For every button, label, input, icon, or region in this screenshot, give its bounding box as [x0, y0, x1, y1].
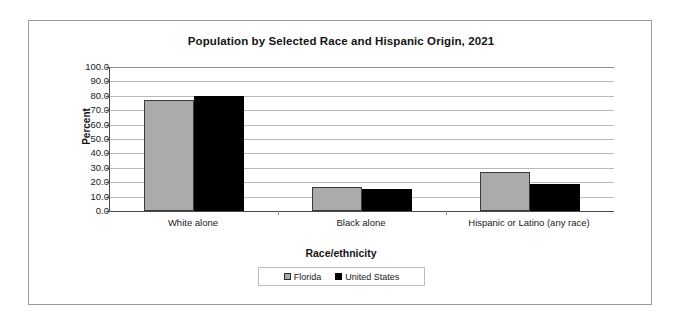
legend-item-united-states[interactable]: United States	[335, 272, 399, 282]
x-axis-tick-label: Hispanic or Latino (any race)	[445, 217, 613, 228]
bar-group	[480, 67, 580, 211]
bar	[480, 172, 530, 211]
chart-legend: FloridaUnited States	[258, 267, 425, 286]
y-axis-tick-mark	[106, 211, 110, 212]
y-axis-tick-label: 10.0	[65, 192, 109, 202]
y-axis-tick-label: 20.0	[65, 177, 109, 187]
x-axis-category-separator	[446, 211, 447, 215]
bar-group	[144, 67, 244, 211]
x-axis-category-separator	[278, 211, 279, 215]
chart-frame: Population by Selected Race and Hispanic…	[28, 20, 652, 305]
y-axis-tick-label: 90.0	[65, 77, 109, 87]
y-axis-tick-label: 30.0	[65, 163, 109, 173]
bar-group	[312, 67, 412, 211]
y-axis-tick-label: 60.0	[65, 120, 109, 130]
bar	[362, 189, 412, 211]
y-axis-tick-label: 100.0	[65, 62, 109, 72]
y-axis-tick-label: 70.0	[65, 105, 109, 115]
y-axis-tick-label: 40.0	[65, 149, 109, 159]
legend-swatch-icon	[284, 273, 291, 280]
legend-item-label: United States	[345, 272, 399, 282]
y-axis-tick-label: 50.0	[65, 134, 109, 144]
chart-title: Population by Selected Race and Hispanic…	[29, 35, 653, 47]
bar	[194, 96, 244, 211]
x-axis-title: Race/ethnicity	[29, 247, 653, 259]
plot-area	[109, 67, 614, 212]
y-axis-tick-label: 0.0	[65, 206, 109, 216]
legend-swatch-icon	[335, 273, 342, 280]
x-axis-tick-label: Black alone	[277, 217, 445, 228]
y-axis-tick-labels: 100.090.080.070.060.050.040.030.020.010.…	[65, 67, 109, 211]
legend-item-florida[interactable]: Florida	[284, 272, 322, 282]
bar	[144, 100, 194, 211]
bar	[530, 184, 580, 211]
x-axis-tick-label: White alone	[109, 217, 277, 228]
x-axis-tick-labels: White aloneBlack aloneHispanic or Latino…	[109, 217, 613, 233]
bar-series-layer	[110, 67, 614, 211]
y-axis-tick-label: 80.0	[65, 91, 109, 101]
bar	[312, 187, 362, 211]
legend-item-label: Florida	[294, 272, 322, 282]
